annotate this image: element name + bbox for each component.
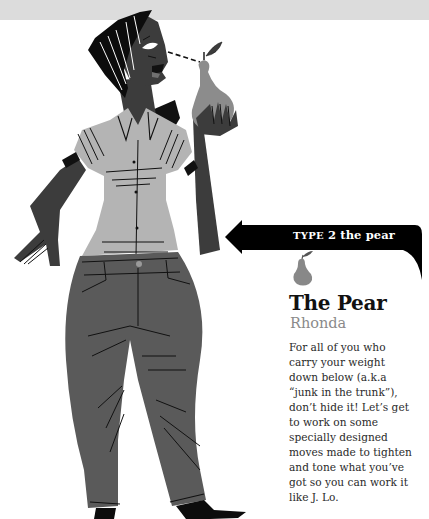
description-line: moves made to tighten xyxy=(289,445,429,460)
profile-name: Rhonda xyxy=(290,314,346,332)
gaze-line xyxy=(168,52,200,62)
description-line: to work on some xyxy=(289,415,429,430)
left-shoe xyxy=(94,508,116,519)
profile-title: The Pear xyxy=(289,292,386,314)
description-line: down below (a.k.a xyxy=(289,370,429,385)
description-line: For all of you who xyxy=(289,340,429,355)
description-line: carry your weight xyxy=(289,355,429,370)
right-arm xyxy=(193,118,220,255)
type-banner: TYPE 2 the pear xyxy=(225,220,425,288)
description-line: “junk in the trunk”), xyxy=(289,385,429,400)
description-line: and tone what you’ve xyxy=(289,460,429,475)
description-line: like J. Lo. xyxy=(289,490,429,505)
banner-type-number: 2 xyxy=(328,228,336,242)
jeans xyxy=(65,252,206,508)
description-line: specially designed xyxy=(289,430,429,445)
shirt xyxy=(74,108,192,256)
description-line: got so you can work it xyxy=(289,475,429,490)
banner-type-word: TYPE xyxy=(293,230,324,241)
banner-type-name: the pear xyxy=(340,228,395,242)
description-line: don’t hide it! Let’s get xyxy=(289,400,429,415)
profile-description: For all of you who carry your weight dow… xyxy=(289,340,429,505)
pear-icon xyxy=(290,251,316,287)
left-arm xyxy=(14,158,86,266)
banner-label: TYPE 2 the pear xyxy=(293,228,395,242)
pear-leaf xyxy=(206,42,222,56)
